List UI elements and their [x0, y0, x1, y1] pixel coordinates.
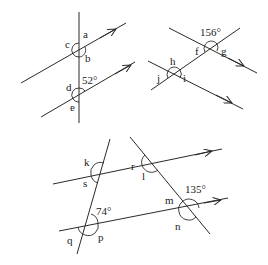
- angle-arc-52: [79, 88, 85, 91]
- parallel-arrow-icon: [216, 95, 232, 103]
- label-n: n: [175, 220, 181, 232]
- figure-2: 156° f g h j i: [148, 26, 257, 109]
- label-m: m: [165, 194, 174, 206]
- label-b: b: [85, 52, 91, 64]
- angle-value-135: 135°: [185, 183, 206, 195]
- angle-value-74: 74°: [96, 205, 111, 217]
- label-s: s: [83, 177, 87, 189]
- angle-arc-j: [167, 71, 168, 78]
- label-q: q: [67, 234, 73, 246]
- angle-arc-f: [204, 45, 205, 52]
- angle-arc-k: [91, 162, 104, 175]
- angles-diagram: a c b 52° d e 156° f g h j i: [0, 0, 268, 265]
- left-transversal: [77, 139, 110, 254]
- angle-value-156: 156°: [200, 26, 221, 38]
- label-l: l: [142, 170, 145, 182]
- figure-3: k s r l 74° q p 135° m n: [53, 137, 228, 254]
- parallel-arrow-icon: [115, 65, 131, 74]
- figure-1: a c b 52° d e: [21, 12, 135, 123]
- label-a: a: [83, 28, 88, 40]
- parallel-line-lower: [59, 198, 228, 231]
- angle-arc-h: [168, 67, 180, 71]
- label-e: e: [70, 101, 75, 113]
- angle-value-52: 52°: [82, 74, 97, 86]
- transversal-line: [151, 28, 240, 90]
- label-k: k: [84, 156, 90, 168]
- angle-arc-r: [142, 155, 145, 165]
- label-p: p: [98, 231, 104, 243]
- angle-arc-c2: [73, 54, 79, 57]
- label-j: j: [156, 72, 160, 84]
- label-f: f: [195, 45, 199, 57]
- label-h: h: [170, 55, 176, 67]
- label-d: d: [66, 81, 72, 93]
- parallel-arrow-icon: [100, 29, 116, 38]
- parallel-arrow-icon: [195, 151, 212, 155]
- angle-arc-156: [205, 41, 217, 45]
- angle-arc-g: [217, 44, 218, 51]
- parallel-arrow-icon: [228, 58, 244, 66]
- label-r: r: [131, 160, 135, 172]
- label-c: c: [65, 38, 70, 50]
- label-i: i: [183, 72, 186, 84]
- parallel-arrow-icon: [204, 200, 221, 203]
- label-g: g: [221, 45, 227, 57]
